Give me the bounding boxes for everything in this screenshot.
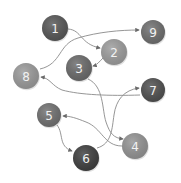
- edge-7-to-8: [41, 77, 140, 95]
- node-2[interactable]: 2: [101, 39, 128, 66]
- node-label: 3: [75, 62, 83, 76]
- node-label: 9: [149, 26, 157, 40]
- node-label: 2: [110, 46, 118, 60]
- node-label: 1: [51, 22, 59, 36]
- edge-2-to-3: [93, 58, 103, 66]
- edge-5-to-6: [57, 125, 72, 151]
- node-4[interactable]: 4: [122, 133, 149, 160]
- node-9[interactable]: 9: [141, 20, 166, 45]
- node-5[interactable]: 5: [37, 103, 62, 128]
- node-7[interactable]: 7: [141, 78, 166, 103]
- node-label: 6: [82, 152, 90, 166]
- node-label: 8: [22, 70, 30, 84]
- node-label: 7: [149, 84, 157, 98]
- nodes: 123987546: [13, 15, 166, 172]
- graph-canvas: 123987546: [0, 0, 181, 183]
- edge-1-to-2: [68, 29, 100, 48]
- edge-3-to-4: [88, 79, 123, 139]
- node-6[interactable]: 6: [73, 145, 100, 172]
- node-label: 4: [131, 140, 139, 154]
- node-3[interactable]: 3: [66, 55, 93, 82]
- node-1[interactable]: 1: [42, 15, 69, 42]
- node-label: 5: [45, 109, 53, 123]
- node-8[interactable]: 8: [13, 63, 40, 90]
